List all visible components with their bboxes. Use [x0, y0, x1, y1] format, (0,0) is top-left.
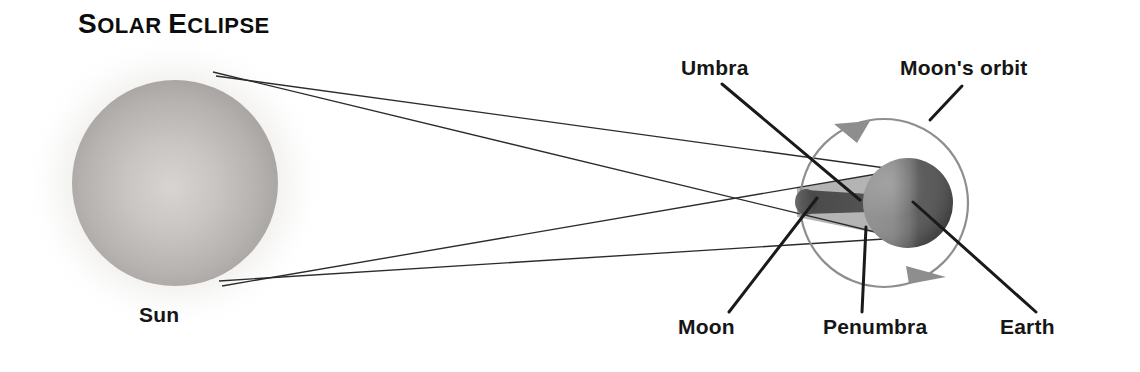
- orbit-arrow-bottom-icon: [906, 266, 946, 284]
- leader-earth: [913, 202, 1036, 312]
- label-sun: Sun: [139, 303, 179, 327]
- title-cap-1: S: [78, 8, 97, 39]
- sun-group: [23, 33, 327, 333]
- light-ray-bottom-inner: [219, 238, 900, 281]
- label-earth: Earth: [1000, 315, 1055, 339]
- earth-group: [863, 158, 953, 248]
- label-umbra: Umbra: [681, 56, 749, 80]
- label-moons-orbit: Moon's orbit: [900, 56, 1028, 80]
- title-cap-2: E: [168, 8, 187, 39]
- title-rest-2: CLIPSE: [187, 13, 269, 38]
- earth-shading: [863, 158, 953, 248]
- label-penumbra: Penumbra: [823, 315, 927, 339]
- leader-moons-orbit: [930, 86, 962, 120]
- leader-moon: [729, 198, 817, 312]
- label-moon: Moon: [678, 315, 735, 339]
- page-title: SOLAR ECLIPSE: [78, 8, 270, 40]
- solar-eclipse-diagram: SOLAR ECLIPSE Sun Umbra Moon's orbit Moo…: [0, 0, 1140, 372]
- title-rest-1: OLAR: [97, 13, 161, 38]
- sun-body: [72, 80, 278, 286]
- leader-umbra: [722, 84, 860, 200]
